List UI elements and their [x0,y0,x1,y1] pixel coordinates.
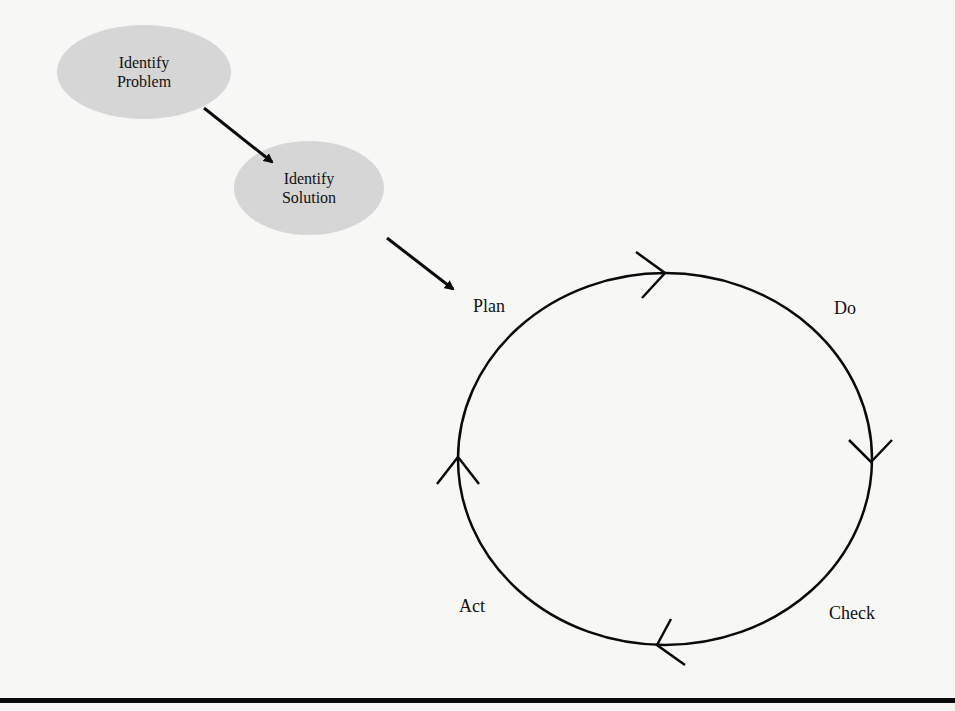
identify-solution-label: Identify Solution [282,169,336,207]
stage-do-label: Do [834,298,856,319]
stage-plan-label: Plan [473,296,505,317]
identify-problem-line1: Identify [117,53,171,72]
bottom-divider-rule [0,698,955,703]
identify-problem-label: Identify Problem [117,53,171,91]
pdca-cycle-ring [458,273,872,645]
stage-act-label: Act [459,596,485,617]
arrow-problem-to-solution [204,108,272,162]
identify-solution-line2: Solution [282,188,336,207]
arrow-solution-to-plan [387,238,453,289]
chevron-left-icon [657,619,685,665]
stage-check-label: Check [829,603,875,624]
identify-solution-line1: Identify [282,169,336,188]
identify-problem-line2: Problem [117,72,171,91]
pdca-diagram: Identify Problem Identify Solution Plan … [0,0,955,711]
